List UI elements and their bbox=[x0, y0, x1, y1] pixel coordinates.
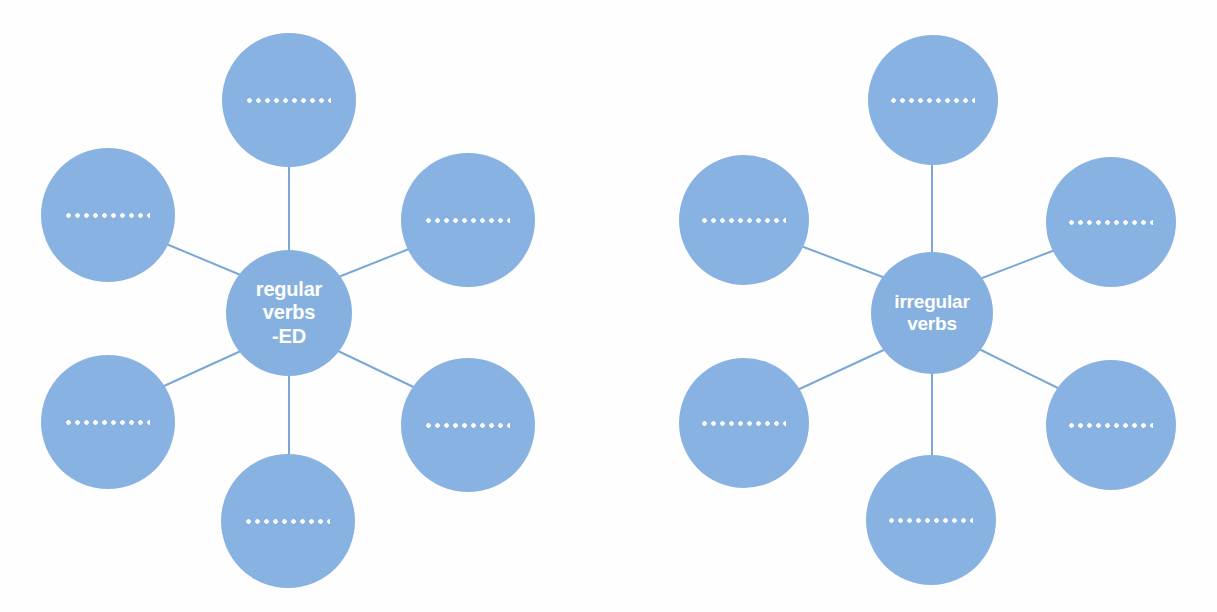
node-regular-spoke-lower-left[interactable] bbox=[41, 355, 175, 489]
center-label-line-1: regular bbox=[256, 278, 322, 302]
blank-line-regular-top[interactable] bbox=[247, 98, 331, 103]
connector-regular-lower-left bbox=[153, 350, 243, 391]
blank-line-irregular-bottom[interactable] bbox=[889, 518, 973, 523]
node-regular-spoke-lower-right[interactable] bbox=[401, 358, 535, 492]
node-irregular-spoke-lower-right[interactable] bbox=[1046, 360, 1176, 490]
center-label-line-2: verbs bbox=[256, 301, 322, 325]
blank-line-regular-bottom[interactable] bbox=[246, 519, 330, 524]
center-label-line-2: verbs bbox=[894, 313, 969, 335]
connector-irregular-lower-right bbox=[977, 348, 1068, 393]
node-regular-spoke-upper-right[interactable] bbox=[401, 153, 535, 287]
worksheet-canvas: regular verbs -ED irregular bbox=[0, 0, 1217, 612]
blank-line-regular-upper-left[interactable] bbox=[66, 213, 150, 218]
node-regular-spoke-bottom[interactable] bbox=[221, 454, 355, 588]
blank-line-regular-upper-right[interactable] bbox=[426, 218, 510, 223]
blank-line-regular-lower-right[interactable] bbox=[426, 423, 510, 428]
blank-line-irregular-upper-right[interactable] bbox=[1069, 220, 1153, 225]
node-irregular-spoke-lower-left[interactable] bbox=[679, 358, 809, 488]
blank-line-irregular-lower-right[interactable] bbox=[1069, 423, 1153, 428]
node-irregular-spoke-upper-left[interactable] bbox=[679, 155, 809, 285]
node-regular-spoke-upper-left[interactable] bbox=[41, 148, 175, 282]
center-label-regular-verbs: regular verbs -ED bbox=[256, 278, 322, 349]
center-label-line-3: -ED bbox=[256, 325, 322, 349]
blank-line-irregular-upper-left[interactable] bbox=[702, 218, 786, 223]
connector-irregular-upper-left bbox=[793, 243, 888, 279]
node-irregular-spoke-bottom[interactable] bbox=[866, 455, 996, 585]
connector-regular-lower-right bbox=[336, 350, 424, 392]
node-irregular-verbs-center: irregular verbs bbox=[871, 252, 993, 374]
connector-lines-layer bbox=[0, 0, 1217, 612]
blank-line-regular-lower-left[interactable] bbox=[66, 420, 150, 425]
center-label-line-1: irregular bbox=[894, 291, 969, 313]
node-irregular-spoke-top[interactable] bbox=[868, 35, 998, 165]
blank-line-irregular-lower-left[interactable] bbox=[702, 421, 786, 426]
center-label-irregular-verbs: irregular verbs bbox=[894, 291, 969, 336]
blank-line-irregular-top[interactable] bbox=[891, 98, 975, 103]
node-regular-spoke-top[interactable] bbox=[222, 33, 356, 167]
node-regular-verbs-center: regular verbs -ED bbox=[226, 250, 352, 376]
node-irregular-spoke-upper-right[interactable] bbox=[1046, 157, 1176, 287]
connector-irregular-lower-left bbox=[793, 348, 888, 392]
